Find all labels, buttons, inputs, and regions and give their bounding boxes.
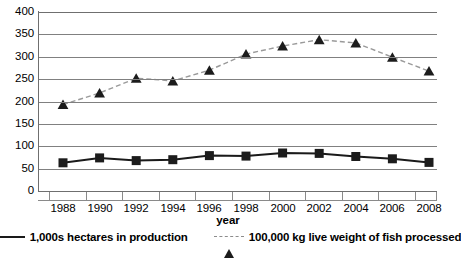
- gridline: [39, 169, 437, 170]
- gridline: [39, 34, 437, 35]
- data-point-triangle: [94, 88, 105, 98]
- x-axis-baseline: [38, 200, 437, 201]
- x-axis-tick: [415, 192, 416, 200]
- x-axis-tick: [269, 192, 270, 200]
- x-axis-tick: [342, 192, 343, 200]
- x-axis-tick: [49, 192, 50, 200]
- data-point-square: [59, 158, 68, 167]
- x-axis-tick: [378, 192, 379, 200]
- gridline: [39, 12, 437, 13]
- x-axis-tick: [122, 192, 123, 200]
- data-point-triangle: [204, 65, 215, 75]
- data-point-square: [351, 152, 360, 161]
- x-axis-tick: [86, 192, 87, 200]
- x-axis-tick: [195, 192, 196, 200]
- data-point-triangle: [424, 66, 435, 76]
- legend-marker-square-icon: [0, 231, 25, 243]
- data-point-square: [95, 153, 104, 162]
- data-point-square: [278, 149, 287, 158]
- x-axis-tick: [159, 192, 160, 200]
- y-axis-tick-label: 50: [2, 163, 34, 175]
- y-axis-tick-label: 0: [2, 185, 34, 197]
- data-point-triangle: [314, 35, 325, 45]
- data-point-square: [315, 149, 324, 158]
- data-point-square: [388, 154, 397, 163]
- data-point-triangle: [167, 76, 178, 86]
- y-axis-tick-label: 150: [2, 118, 34, 130]
- data-point-square: [242, 152, 251, 161]
- series-2: [58, 35, 435, 109]
- y-axis-tick-label: 350: [2, 28, 34, 40]
- legend-label-fish: 100,000 kg live weight of fish processed: [249, 231, 461, 243]
- data-point-square: [425, 158, 434, 167]
- gridline: [39, 146, 437, 147]
- y-axis-tick-label: 200: [2, 96, 34, 108]
- data-point-square: [132, 156, 141, 165]
- legend-marker-triangle-icon: [214, 231, 244, 243]
- series-1: [59, 149, 434, 168]
- data-point-square: [168, 155, 177, 164]
- data-point-square: [205, 151, 214, 160]
- y-axis-tick-label: 100: [2, 140, 34, 152]
- y-axis-tick-label: 250: [2, 73, 34, 85]
- chart-legend: 1,000s hectares in production 100,000 kg…: [0, 229, 456, 245]
- y-axis-tick-label: 300: [2, 51, 34, 63]
- x-axis-title: year: [0, 214, 456, 227]
- legend-item-hectares: 1,000s hectares in production: [0, 231, 188, 243]
- legend-item-fish: 100,000 kg live weight of fish processed: [214, 231, 461, 243]
- x-axis-tick-end: [436, 192, 437, 201]
- y-axis-tick-label: 400: [2, 6, 34, 18]
- x-axis-tick: [232, 192, 233, 200]
- gridline: [39, 102, 437, 103]
- gridline: [39, 124, 437, 125]
- gridline: [39, 57, 437, 58]
- legend-label-hectares: 1,000s hectares in production: [30, 231, 188, 243]
- plot-area: [39, 12, 437, 191]
- x-axis-tick: [305, 192, 306, 200]
- gridline: [39, 79, 437, 80]
